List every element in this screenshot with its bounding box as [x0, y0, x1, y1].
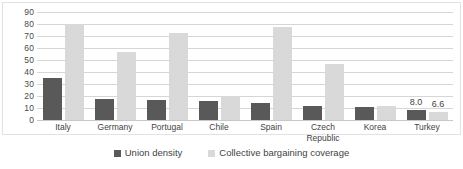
gridline-0	[37, 120, 453, 121]
bar[interactable]	[273, 27, 292, 120]
x-axis-categories: ItalyGermanyPortugalChileSpainCzech Repu…	[37, 122, 453, 143]
bar-group	[193, 12, 245, 120]
x-category-label: Spain	[245, 122, 297, 143]
y-tick-label: 30	[4, 80, 34, 88]
x-category-label: Portugal	[141, 122, 193, 143]
y-tick-label: 10	[4, 104, 34, 112]
x-category-label: Italy	[37, 122, 89, 143]
bar[interactable]	[251, 103, 270, 120]
bar[interactable]	[303, 106, 322, 120]
y-tick-label: 80	[4, 20, 34, 28]
bar[interactable]	[117, 52, 136, 120]
bar[interactable]	[377, 106, 396, 120]
bar[interactable]: 8.0	[407, 110, 426, 120]
bar[interactable]	[43, 78, 62, 120]
y-tick-label: 70	[4, 32, 34, 40]
x-category-label: Chile	[193, 122, 245, 143]
bar-chart: 9080706050403020100 8.06.6 ItalyGermanyP…	[0, 0, 463, 169]
chart-legend: Union densityCollective bargaining cover…	[0, 148, 463, 158]
x-category-label: Korea	[349, 122, 401, 143]
bar[interactable]	[221, 96, 240, 120]
bar[interactable]	[355, 107, 374, 120]
y-tick-label: 40	[4, 68, 34, 76]
bar-data-label: 6.6	[432, 99, 445, 109]
bar[interactable]: 6.6	[429, 112, 448, 120]
y-tick-label: 50	[4, 56, 34, 64]
y-axis: 9080706050403020100	[0, 12, 34, 120]
bar-groups: 8.06.6	[37, 12, 453, 120]
bar-group: 8.06.6	[401, 12, 453, 120]
bar-data-label: 8.0	[410, 97, 423, 107]
bar-group	[349, 12, 401, 120]
bar-group	[297, 12, 349, 120]
bar[interactable]	[65, 24, 84, 120]
y-tick-label: 60	[4, 44, 34, 52]
legend-swatch-icon	[208, 150, 215, 157]
bar-group	[141, 12, 193, 120]
y-tick-label: 90	[4, 8, 34, 16]
bar[interactable]	[325, 64, 344, 120]
bar[interactable]	[199, 101, 218, 120]
legend-item[interactable]: Union density	[114, 148, 183, 158]
bar-group	[37, 12, 89, 120]
bar[interactable]	[169, 33, 188, 120]
bar[interactable]	[147, 100, 166, 120]
legend-swatch-icon	[114, 150, 121, 157]
bar-group	[245, 12, 297, 120]
legend-label: Collective bargaining coverage	[219, 148, 349, 158]
x-category-label: Turkey	[401, 122, 453, 143]
bar[interactable]	[95, 99, 114, 120]
bar-group	[89, 12, 141, 120]
legend-item[interactable]: Collective bargaining coverage	[208, 148, 349, 158]
x-category-label: Germany	[89, 122, 141, 143]
legend-label: Union density	[125, 148, 183, 158]
y-tick-label: 0	[4, 116, 34, 124]
x-category-label: Czech Republic	[297, 122, 349, 143]
y-tick-label: 20	[4, 92, 34, 100]
